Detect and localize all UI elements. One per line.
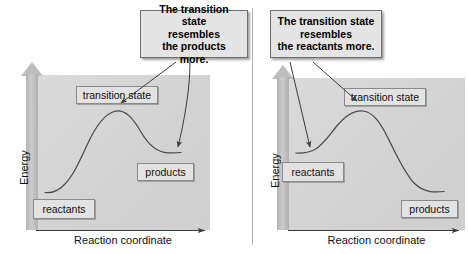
chip-products-right: products — [401, 200, 458, 218]
chip-transition-state-right: transition state — [344, 88, 426, 106]
callout-right: The transition state resembles the react… — [270, 10, 382, 58]
chip-reactants-left: reactants — [33, 199, 95, 219]
callout-left: The transition state resembles the produ… — [140, 10, 248, 58]
chip-label: products — [145, 166, 185, 178]
chip-label: products — [409, 203, 449, 215]
energy-axis-label: Energy — [269, 153, 281, 188]
reaction-coordinate-label: Reaction coordinate — [288, 234, 465, 246]
panel-left: Energy Reaction coordinate transition st… — [0, 0, 252, 254]
chip-transition-state-left: transition state — [76, 86, 158, 104]
chip-reactants-right: reactants — [282, 162, 344, 182]
callout-line-2: resembles — [147, 28, 241, 41]
panel-right: Energy Reaction coordinate transition st… — [253, 0, 468, 254]
energy-axis-arrow-icon — [272, 65, 294, 230]
chip-label: reactants — [291, 166, 334, 178]
callout-line-1: The transition state — [147, 3, 241, 28]
callout-line-3: the reactants more. — [278, 40, 375, 53]
reaction-coordinate-label: Reaction coordinate — [36, 234, 210, 246]
energy-axis-label: Energy — [18, 150, 30, 185]
chip-label: transition state — [83, 89, 151, 101]
callout-line-2: resembles — [278, 28, 375, 41]
callout-line-1: The transition state — [278, 15, 375, 28]
chip-label: reactants — [42, 203, 85, 215]
callout-line-3: the products more. — [147, 40, 241, 65]
chip-products-left: products — [137, 163, 194, 181]
chip-label: transition state — [351, 91, 419, 103]
hammond-postulate-figure: Energy Reaction coordinate transition st… — [0, 0, 468, 254]
